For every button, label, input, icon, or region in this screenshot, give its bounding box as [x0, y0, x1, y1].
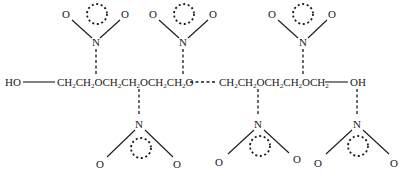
delocalization-ring-icon [348, 136, 368, 156]
nitrogen-label: N [135, 118, 143, 130]
nitrogen-label: N [353, 118, 361, 130]
delocalization-ring-icon [293, 4, 313, 24]
peg-nitrate-structure-diagram: HO CH2CH2OCH2CH2OCH2CH2O CH2CH2OCH2CH2OC… [0, 0, 400, 186]
n-o-bond [326, 130, 352, 154]
delocalization-ring-icon [131, 138, 151, 158]
n-o-bond [264, 130, 289, 153]
oxygen-label: O [62, 8, 70, 20]
nitrogen-label: N [299, 36, 307, 48]
oxygen-label: O [96, 158, 104, 170]
n-o-bond [72, 20, 92, 38]
nitrogen-label: N [254, 118, 262, 130]
n-o-bond [363, 130, 389, 154]
oxygen-label: O [121, 8, 129, 20]
oxygen-label: O [173, 158, 181, 170]
oxygen-label: O [328, 8, 336, 20]
n-o-bond [188, 20, 208, 38]
n-o-bond [308, 20, 327, 38]
nitro-group-bottom-1: N O O [96, 89, 181, 170]
oxygen-label: O [215, 156, 223, 168]
oxygen-label: O [314, 157, 322, 169]
chain-segment-1: CH2CH2OCH2CH2OCH2CH2O [57, 76, 194, 90]
nitro-group-top-2: O O N [149, 4, 217, 75]
nitro-group-bottom-2: N O O [215, 89, 301, 168]
nitro-group-bottom-3: N O O [314, 89, 398, 169]
chain-segment-2: CH2CH2OCH2CH2OCH2 [219, 76, 329, 90]
oxygen-label: O [209, 8, 217, 20]
delocalization-ring-icon [174, 4, 194, 24]
n-o-bond [159, 20, 179, 38]
oxygen-label: O [390, 157, 398, 169]
nitro-group-top-1: O O N [62, 4, 129, 75]
nitrogen-label: N [92, 36, 100, 48]
n-o-bond [107, 130, 135, 157]
delocalization-ring-icon [87, 4, 107, 24]
oxygen-label: O [149, 8, 157, 20]
main-chain: HO CH2CH2OCH2CH2OCH2CH2O CH2CH2OCH2CH2OC… [5, 76, 366, 90]
nitrogen-label: N [179, 36, 187, 48]
nitro-group-top-3: O O N [268, 4, 336, 75]
n-o-bond [228, 130, 254, 154]
oxygen-label: O [268, 8, 276, 20]
n-o-bond [278, 20, 298, 38]
left-hydroxyl-label: HO [5, 76, 21, 88]
right-hydroxyl-label: OH [350, 76, 366, 88]
delocalization-ring-icon [250, 136, 270, 156]
oxygen-label: O [293, 153, 301, 165]
